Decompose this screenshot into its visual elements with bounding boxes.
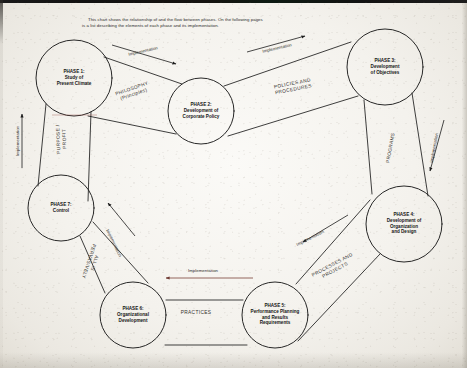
phase6-line2: Organizational [117, 312, 149, 318]
phase3-line2: Development [371, 64, 400, 70]
node-phase2-label: PHASE 2: Development of Corporate Policy [183, 102, 220, 119]
phase2-line3: Corporate Policy [183, 114, 220, 120]
impl-label-5-6: Implementation [188, 268, 218, 273]
node-phase1-label: PHASE 1: Study of Present Climate [57, 69, 92, 86]
impl-label-7-1: Implementation [15, 126, 20, 156]
band-label-purpose-profit: PURPOSE / PROFIT [55, 124, 68, 154]
phase4-line2: Development of [387, 218, 421, 224]
phase7-line2: Control [50, 208, 71, 214]
phase3-line1: PHASE 3: [371, 58, 400, 64]
node-phase3-label: PHASE 3: Development of Objectives [371, 58, 400, 75]
node-phase4-label: PHASE 4: Development of Organization and… [387, 212, 421, 235]
phase4-line4: and Design [387, 230, 421, 236]
phase-flow-diagram [0, 0, 467, 368]
practices-line1: PRACTICES [181, 310, 212, 316]
scanned-page: This chart shows the relationship of and… [0, 0, 467, 368]
phase6-line3: Development [117, 318, 149, 324]
node-phase6-label: PHASE 6: Organizational Development [117, 306, 149, 323]
purpose-line2: PROFIT [61, 124, 68, 153]
phase7-line1: PHASE 7: [50, 202, 71, 208]
phase5-line2: Performance Planning [251, 309, 300, 315]
band-label-practices: PRACTICES [181, 310, 212, 316]
node-phase7-label: PHASE 7: Control [50, 202, 71, 214]
phase5-line4: Requirements [251, 321, 300, 327]
phase1-line3: Present Climate [57, 81, 92, 87]
node-phase5-label: PHASE 5: Performance Planning and Result… [251, 303, 300, 326]
phase2-line2: Development of [183, 108, 220, 114]
phase3-line3: of Objectives [371, 70, 400, 76]
header-line-2: is a list describing the elements of eac… [82, 23, 219, 29]
